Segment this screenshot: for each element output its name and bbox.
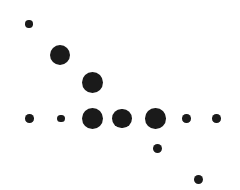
data-point — [82, 108, 103, 129]
data-point — [153, 144, 162, 153]
plot-area — [0, 0, 240, 190]
data-point — [145, 108, 166, 129]
data-point — [50, 45, 70, 65]
data-point — [182, 114, 191, 123]
data-point — [25, 114, 34, 123]
data-point — [212, 114, 221, 123]
data-point — [194, 175, 203, 184]
data-point — [57, 115, 64, 122]
data-point — [112, 109, 131, 128]
bubble-chart — [0, 0, 240, 190]
data-point — [82, 72, 103, 93]
data-point — [25, 20, 32, 27]
